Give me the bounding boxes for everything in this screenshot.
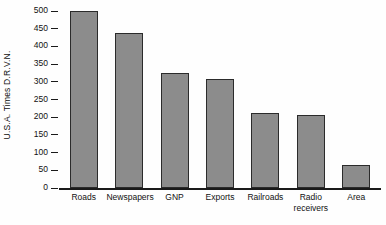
y-tick-label: 250 — [10, 94, 48, 105]
x-axis-label: Roads — [61, 192, 106, 203]
y-tick-mark — [51, 81, 58, 82]
bar — [70, 11, 98, 188]
y-tick-label: 500 — [10, 5, 48, 16]
y-tick-label: 0 — [10, 182, 48, 193]
y-tick-label: 450 — [10, 23, 48, 34]
y-tick-mark — [51, 28, 58, 29]
bar-chart: U.S.A. Times D.R.V.N. 050100150200250300… — [0, 0, 386, 225]
y-tick-mark — [51, 152, 58, 153]
y-tick-mark — [51, 134, 58, 135]
y-tick-mark — [51, 11, 58, 12]
y-tick-mark — [51, 64, 58, 65]
plot-area — [61, 4, 379, 188]
bar — [115, 33, 143, 188]
x-axis-label: GNP — [152, 192, 197, 203]
x-axis-line — [59, 188, 381, 190]
bar — [161, 73, 189, 188]
y-tick-label: 150 — [10, 129, 48, 140]
y-tick-mark — [51, 46, 58, 47]
bar — [297, 115, 325, 188]
x-axis-label: Exports — [197, 192, 242, 203]
x-axis-label: Radio receivers — [288, 192, 333, 214]
bar — [251, 113, 279, 188]
x-axis-label: Railroads — [243, 192, 288, 203]
y-tick-mark — [51, 170, 58, 171]
y-tick-label: 50 — [10, 164, 48, 175]
x-axis-label: Area — [334, 192, 379, 203]
bar — [206, 79, 234, 188]
y-tick-mark — [51, 99, 58, 100]
y-tick-label: 200 — [10, 111, 48, 122]
y-tick-mark — [51, 117, 58, 118]
y-tick-label: 300 — [10, 76, 48, 87]
y-tick-label: 350 — [10, 58, 48, 69]
y-tick-label: 400 — [10, 40, 48, 51]
y-tick-mark — [51, 188, 58, 189]
bar — [342, 165, 370, 188]
y-tick-label: 100 — [10, 147, 48, 158]
x-axis-label: Newspapers — [106, 192, 151, 203]
